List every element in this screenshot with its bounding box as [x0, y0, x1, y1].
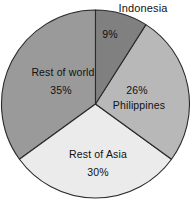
slice-label-rest-of-world-name: Rest of world — [23, 66, 103, 79]
slice-label-rest-of-asia-name: Rest of Asia — [62, 148, 134, 161]
slice-label-philippines-value: 26% — [117, 84, 157, 97]
slice-label-philippines-name: Philippines — [109, 99, 169, 112]
slice-label-rest-of-world-value: 35% — [42, 84, 80, 97]
pie-chart-figure: Indonesia 9% 26% Philippines Rest of Asi… — [0, 0, 191, 206]
slice-label-indonesia-name: Indonesia — [108, 2, 178, 15]
slice-label-indonesia-value: 9% — [93, 28, 127, 41]
slice-label-rest-of-asia-value: 30% — [79, 166, 117, 179]
